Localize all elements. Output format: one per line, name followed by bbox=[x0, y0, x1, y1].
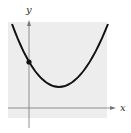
y-axis-label: y bbox=[26, 4, 32, 15]
x-axis-arrow-icon bbox=[110, 106, 116, 110]
graph bbox=[0, 0, 131, 133]
graph-background bbox=[8, 22, 107, 118]
x-axis-label: x bbox=[120, 102, 126, 113]
y-intercept-point bbox=[26, 59, 31, 64]
